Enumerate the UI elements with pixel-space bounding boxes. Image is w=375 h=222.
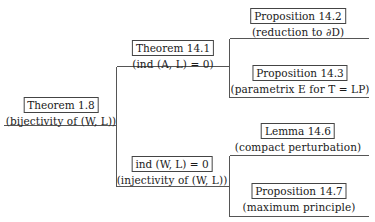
node-subtitle: (reduction to ∂D)	[250, 26, 346, 38]
node-theorem-1-8: Theorem 1.8 (bijectivity of (W, L))	[6, 96, 117, 127]
node-subtitle: (ind (A, L) = 0)	[132, 58, 214, 70]
node-proposition-14-2: Proposition 14.2 (reduction to ∂D)	[250, 7, 346, 38]
node-subtitle: (parametrix E for T = LP)	[230, 83, 369, 95]
node-subtitle: (bijectivity of (W, L))	[6, 115, 117, 127]
node-proposition-14-7: Proposition 14.7 (maximum principle)	[243, 182, 356, 213]
node-title: Proposition 14.3	[252, 65, 348, 81]
node-lemma-14-6: Lemma 14.6 (compact perturbation)	[235, 122, 362, 153]
node-subtitle: (injectivity of (W, L))	[117, 174, 228, 186]
node-title: Theorem 1.8	[23, 97, 99, 113]
node-subtitle: (maximum principle)	[243, 201, 356, 213]
node-theorem-14-1: Theorem 14.1 (ind (A, L) = 0)	[132, 39, 214, 70]
dependency-diagram: Theorem 1.8 (bijectivity of (W, L)) Theo…	[0, 0, 375, 222]
node-subtitle: (compact perturbation)	[235, 141, 362, 153]
node-title: ind (W, L) = 0	[131, 156, 212, 172]
node-title: Theorem 14.1	[132, 40, 214, 56]
node-proposition-14-3: Proposition 14.3 (parametrix E for T = L…	[230, 64, 369, 95]
node-ind-wl-zero: ind (W, L) = 0 (injectivity of (W, L))	[117, 155, 228, 186]
node-title: Proposition 14.7	[251, 183, 347, 199]
node-title: Proposition 14.2	[250, 8, 346, 24]
node-title: Lemma 14.6	[261, 123, 335, 139]
